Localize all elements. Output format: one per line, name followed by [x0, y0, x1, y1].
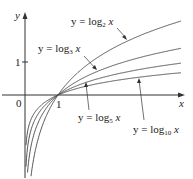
x-axis-label: x	[179, 98, 184, 109]
log10-arrowhead-icon	[137, 78, 141, 83]
log3-label: y = log3 x	[38, 43, 80, 56]
log10-label: y = log10 x	[133, 124, 179, 137]
log5-label: y = log5 x	[78, 112, 120, 125]
y-tick-1-label: 1	[15, 57, 21, 68]
y-axis-arrow-icon	[23, 12, 28, 19]
origin-label: 0	[16, 98, 22, 109]
y-axis-label: y	[15, 10, 20, 21]
log10-pointer	[139, 80, 144, 120]
log2-label: y = log2 x	[71, 16, 113, 29]
x-tick-1-label: 1	[56, 99, 62, 110]
log5-pointer	[86, 84, 89, 110]
log2-arrowhead-icon	[122, 35, 127, 40]
